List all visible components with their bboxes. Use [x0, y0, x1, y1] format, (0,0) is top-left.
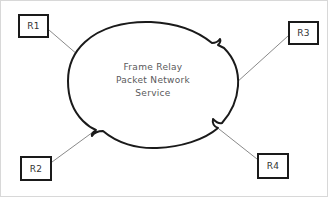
connector-r4-to-cloud — [219, 129, 257, 159]
router-node-r4[interactable]: R4 — [257, 153, 289, 179]
cloud-label-line-1: Frame Relay — [99, 61, 207, 74]
connector-r1-to-cloud — [49, 30, 78, 55]
router-node-r3-label: R3 — [297, 28, 309, 38]
router-node-r1[interactable]: R1 — [18, 14, 49, 38]
router-node-r1-label: R1 — [27, 21, 39, 31]
diagram-canvas: Frame Relay Packet Network Service R1 R3… — [0, 0, 328, 197]
router-node-r2[interactable]: R2 — [20, 156, 52, 181]
connector-r3-to-cloud — [236, 36, 288, 83]
cloud-label-line-3: Service — [99, 87, 207, 100]
cloud-label-line-2: Packet Network — [99, 74, 207, 87]
connector-r2-to-cloud — [52, 132, 93, 162]
router-node-r4-label: R4 — [267, 161, 279, 171]
router-node-r3[interactable]: R3 — [288, 21, 319, 45]
cloud-label: Frame Relay Packet Network Service — [99, 61, 207, 100]
router-node-r2-label: R2 — [30, 164, 42, 174]
